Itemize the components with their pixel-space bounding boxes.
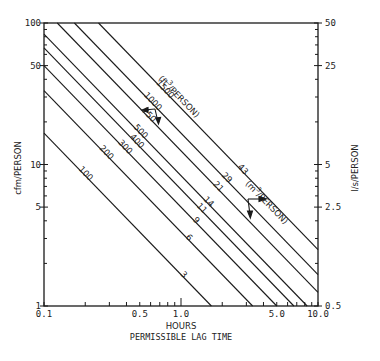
svg-text:1: 1 [36, 301, 41, 311]
svg-text:0.5: 0.5 [132, 309, 148, 319]
line-label-m3-21: 21 [211, 179, 226, 194]
svg-text:25: 25 [325, 61, 336, 71]
line-label-ft3-100: 100 [77, 164, 95, 183]
right-axis-arrow-icon [248, 197, 267, 219]
svg-text:0.5: 0.5 [325, 301, 341, 311]
volume-line-100 [44, 133, 211, 306]
svg-text:50: 50 [325, 18, 336, 28]
svg-text:100: 100 [25, 18, 41, 28]
left-y-axis-title: cfm/PERSON [13, 141, 23, 195]
svg-text:2.5: 2.5 [325, 202, 341, 212]
svg-text:5.0: 5.0 [269, 309, 285, 319]
x-axis-subtitle: PERMISSIBLE LAG TIME [130, 332, 232, 342]
x-axis-title: HOURS [166, 321, 197, 331]
ft3-unit-annotation: (ft3/PERSON) [157, 72, 204, 120]
svg-text:10: 10 [30, 160, 41, 170]
svg-text:50: 50 [30, 61, 41, 71]
right-y-axis-title: l/s/PERSON [350, 144, 360, 191]
svg-text:5: 5 [36, 202, 41, 212]
m3-unit-annotation: (m3/PERSON) [244, 177, 292, 226]
line-label-ft3-200: 200 [98, 143, 116, 162]
x-axis-ticks: 0.10.51.05.010.0 [36, 298, 329, 319]
svg-text:1.0: 1.0 [173, 309, 189, 319]
line-label-m3-43: 43 [236, 162, 251, 177]
volume-line-200 [44, 91, 253, 306]
lag-time-chart: 0.10.51.05.010.0 151050100 0.52.552550 1… [0, 0, 380, 361]
volume-line-750 [57, 23, 318, 292]
svg-text:5: 5 [325, 160, 330, 170]
